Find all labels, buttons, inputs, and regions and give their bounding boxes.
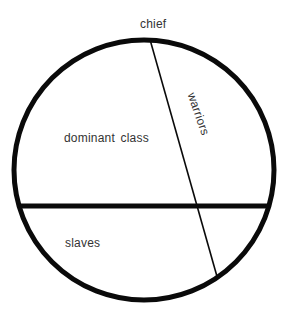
diagram-canvas: chief warriors dominant class slaves: [0, 0, 290, 324]
circle-diagram-graphic: [0, 0, 290, 324]
outer-circle: [14, 40, 274, 300]
label-slaves: slaves: [65, 237, 100, 250]
label-chief: chief: [140, 18, 166, 31]
label-dominant-class: dominant class: [64, 132, 149, 145]
